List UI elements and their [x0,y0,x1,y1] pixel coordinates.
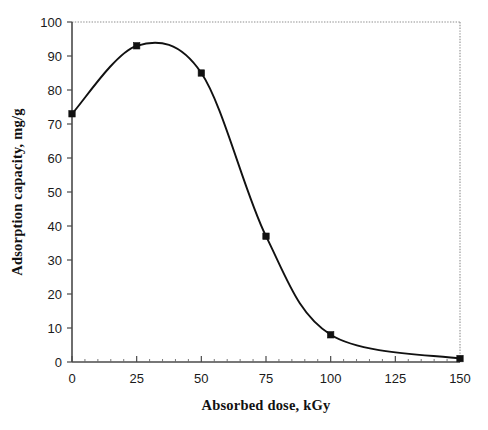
y-tick-label-70: 70 [48,117,62,132]
data-point-75 [263,233,269,239]
series-markers-adsorption-capacity [69,43,463,362]
y-tick-label-0: 0 [55,355,62,370]
y-tick-label-20: 20 [48,287,62,302]
y-axis-title: Adsorption capacity, mg/g [9,108,25,276]
x-tick-label-150: 150 [449,371,471,386]
chart-figure: 0102030405060708090100 Adsorption capaci… [0,0,488,430]
y-tick-label-80: 80 [48,83,62,98]
y-tick-label-50: 50 [48,185,62,200]
series-line-adsorption-capacity [72,43,460,359]
y-tick-label-40: 40 [48,219,62,234]
data-point-100 [327,332,333,338]
data-point-0 [69,111,75,117]
data-point-150 [457,355,463,361]
adsorption-capacity-line-chart: 0102030405060708090100 Adsorption capaci… [0,0,488,430]
x-tick-label-0: 0 [68,371,75,386]
x-axis-ticks [72,356,460,362]
y-axis-tick-labels: 0102030405060708090100 [40,15,62,370]
data-point-25 [133,43,139,49]
x-axis-title: Absorbed dose, kGy [202,397,331,413]
y-axis: 0102030405060708090100 Adsorption capaci… [9,15,72,370]
x-axis: 0255075100125150 Absorbed dose, kGy [68,356,470,413]
x-tick-label-50: 50 [194,371,208,386]
y-tick-label-10: 10 [48,321,62,336]
x-tick-label-25: 25 [129,371,143,386]
y-tick-label-60: 60 [48,151,62,166]
x-axis-tick-labels: 0255075100125150 [68,371,470,386]
x-tick-label-75: 75 [259,371,273,386]
x-tick-label-100: 100 [320,371,342,386]
y-tick-label-90: 90 [48,49,62,64]
y-tick-label-30: 30 [48,253,62,268]
x-tick-label-125: 125 [384,371,406,386]
y-tick-label-100: 100 [40,15,62,30]
plot-frame [72,22,460,362]
data-series [69,43,463,362]
data-point-50 [198,70,204,76]
